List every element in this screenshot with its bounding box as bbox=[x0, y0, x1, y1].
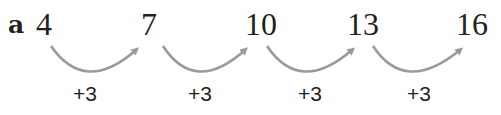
step-label-2: +3 bbox=[188, 83, 212, 104]
step-label-1: +3 bbox=[73, 83, 97, 104]
step-label-3: +3 bbox=[298, 83, 322, 104]
step-label-4: +3 bbox=[407, 83, 431, 104]
curved-arrow-icon bbox=[51, 46, 136, 72]
curved-arrow-icon bbox=[163, 46, 245, 72]
curved-arrow-icon bbox=[267, 46, 352, 72]
curved-arrow-icon bbox=[373, 46, 460, 72]
